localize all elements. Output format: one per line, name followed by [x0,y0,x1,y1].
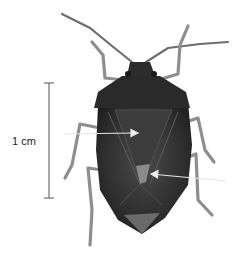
bug-body [94,62,192,234]
bug-illustration [0,0,242,259]
figure: 1 cm [0,0,242,259]
antennae [62,14,228,62]
scale-bar [44,83,54,198]
scale-label: 1 cm [12,135,36,147]
